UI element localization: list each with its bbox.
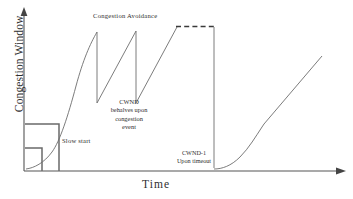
x-axis-title: Time [142,178,170,192]
chart-canvas [0,0,353,199]
congestion-avoidance-sawtooth-1 [97,31,136,103]
slow-start-annotation: Slow start [62,137,91,145]
cwnd-behaves-line-4: event [101,123,157,131]
y-axis-title: Congestion Window [13,11,27,116]
x-axis-arrowhead [336,167,346,174]
cwnd-timeout-line-2: Upon timeout [170,157,218,165]
post-timeout-recovery-curve [214,56,322,169]
cwnd-behaves-line-2: behalves upon [101,106,157,114]
cwnd-behaves-line-1: CWND [101,98,157,106]
cwnd-behaves-annotation: CWND behalves upon congestion event [101,98,157,132]
cwnd-timeout-annotation: CWND-1 Upon timeout [170,149,218,166]
congestion-avoidance-sawtooth-2 [136,27,177,103]
x-axis [24,167,346,174]
tcp-congestion-window-figure: Congestion Window Time Congestion Avoida… [0,0,353,199]
cwnd-behaves-line-3: congestion [101,115,157,123]
congestion-avoidance-annotation: Congestion Avoidance [93,12,157,20]
cwnd-timeout-line-1: CWND-1 [170,149,218,157]
